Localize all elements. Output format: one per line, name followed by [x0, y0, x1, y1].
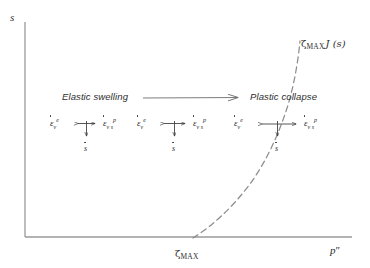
epsilon-symbol: ε [193, 118, 197, 128]
epsilon-superscript: e [56, 117, 59, 123]
epsilon-superscript: e [240, 117, 243, 123]
rate-symbol-plastic-3: εv sp [304, 119, 317, 128]
epsilon-symbol: ε [50, 118, 54, 128]
rate-symbol-elastic-1: εve [50, 119, 59, 128]
s-dot-symbol: s [84, 144, 87, 153]
zeta-max-subscript: MAX [306, 42, 324, 51]
epsilon-symbol: ε [234, 118, 238, 128]
epsilon-subscript: v s [107, 124, 114, 130]
x-axis-label-primes: ″ [336, 244, 341, 256]
x-intercept-label: ζMAX [175, 243, 199, 261]
suction-rate-label-3: s [275, 137, 278, 155]
s-dot-symbol: s [275, 144, 278, 153]
rate-symbol-elastic-3: εve [234, 119, 243, 128]
rate-arrow-cluster-1 [78, 121, 95, 136]
epsilon-superscript: e [143, 117, 146, 123]
rate-symbol-elastic-2: εve [137, 119, 146, 128]
yield-curve-label: ζMAXJ (s) [301, 33, 346, 51]
figure-canvas: s p″ ζMAXJ (s) ζMAX Elastic swelling Pla… [0, 0, 370, 268]
epsilon-subscript: v s [197, 124, 204, 130]
rate-symbol-plastic-1: εv sp [103, 119, 116, 128]
epsilon-superscript: p [314, 117, 317, 123]
rate-symbol-plastic-2: εv sp [193, 119, 206, 128]
epsilon-superscript: p [203, 117, 206, 123]
yield-curve [193, 41, 300, 238]
caption-elastic-swelling: Elastic swelling [62, 91, 128, 102]
axis-lines [25, 22, 352, 237]
epsilon-symbol: ε [103, 118, 107, 128]
elastic-to-plastic-arrow [143, 98, 238, 99]
rate-arrow-cluster-3 [262, 121, 296, 136]
epsilon-symbol: ε [137, 118, 141, 128]
x-axis-label: p″ [330, 240, 340, 258]
s-dot-symbol: s [172, 144, 175, 153]
caption-plastic-collapse: Plastic collapse [250, 91, 317, 102]
yield-function-label: J (s) [326, 38, 346, 49]
y-axis-label: s [10, 11, 14, 23]
epsilon-subscript: v s [308, 124, 315, 130]
epsilon-superscript: p [113, 117, 116, 123]
rate-arrow-cluster-2 [164, 121, 185, 136]
zeta-max-subscript-intercept: MAX [180, 252, 198, 261]
suction-rate-label-1: s [84, 137, 87, 155]
epsilon-symbol: ε [304, 118, 308, 128]
suction-rate-label-2: s [172, 137, 175, 155]
